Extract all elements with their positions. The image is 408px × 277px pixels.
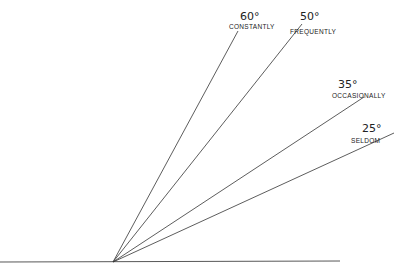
frequency-label: SELDOM [351, 137, 380, 144]
angle-diagram: 60°CONSTANTLY50°FREQUENTLY35°OCCASIONALL… [0, 0, 408, 277]
angle-ray [113, 31, 238, 262]
diagram-svg: 60°CONSTANTLY50°FREQUENTLY35°OCCASIONALL… [0, 0, 408, 277]
frequency-label: CONSTANTLY [229, 23, 275, 30]
angle-label: 50° [300, 10, 320, 23]
angle-label: 60° [240, 10, 260, 23]
baseline [0, 261, 340, 262]
angle-label: 35° [338, 78, 358, 91]
angle-ray [113, 133, 394, 262]
frequency-label: OCCASIONALLY [332, 92, 386, 99]
angle-ray [113, 97, 364, 262]
angle-label: 25° [362, 122, 382, 135]
frequency-label: FREQUENTLY [290, 28, 337, 36]
angle-ray [113, 24, 302, 262]
